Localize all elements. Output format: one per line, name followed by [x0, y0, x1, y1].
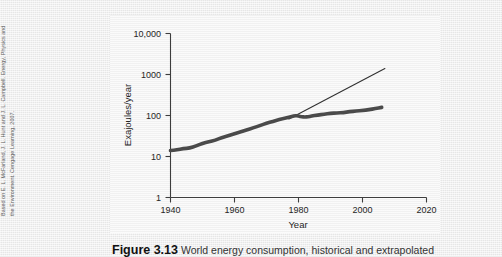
- figure-caption: Figure 3.13 World energy consumption, hi…: [112, 243, 500, 257]
- figure-number: Figure 3.13: [112, 243, 178, 257]
- x-axis-ticks: [171, 198, 427, 203]
- x-tick-label-1980: 1980: [288, 205, 308, 215]
- y-tick-label-1: 1: [156, 193, 161, 203]
- x-tick-label-2020: 2020: [416, 205, 436, 215]
- x-tick-label-1960: 1960: [224, 205, 244, 215]
- y-tick-label-10: 10: [151, 152, 161, 162]
- y-tick-label-100: 100: [146, 111, 161, 121]
- y-axis-title: Exajoules/year: [122, 84, 133, 146]
- x-tick-label-1940: 1940: [160, 205, 180, 215]
- figure-caption-text: World energy consumption, historical and…: [181, 244, 434, 256]
- y-tick-label-10000: 10,000: [133, 29, 161, 39]
- x-axis-title: Year: [288, 219, 307, 230]
- historical-consumption-line: [171, 107, 382, 150]
- y-tick-label-1000: 1000: [141, 70, 161, 80]
- x-tick-label-2000: 2000: [352, 205, 372, 215]
- y-axis-ticks: [166, 34, 171, 198]
